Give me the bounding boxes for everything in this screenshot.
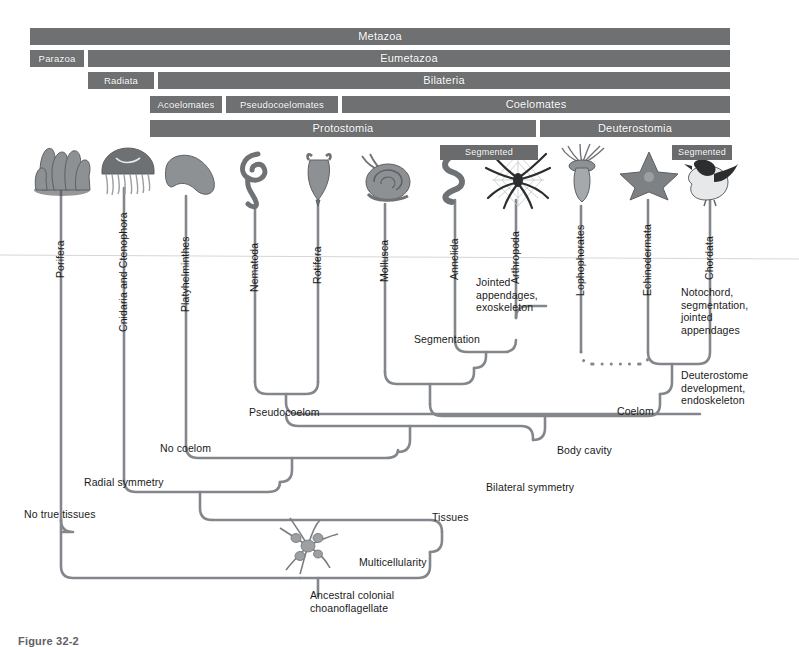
organism-roundworm <box>243 154 265 207</box>
annotation-jointed-appendages: Jointed appendages, exoskeleton <box>476 276 538 314</box>
organism-earthworm <box>445 154 462 202</box>
annotation-tissues: Tissues <box>432 511 469 524</box>
annotation-segmentation: Segmentation <box>414 333 480 346</box>
organism-sponge <box>34 148 90 196</box>
organism-jellyfish <box>102 148 154 195</box>
taxon-label-lophophorates[interactable]: Lophophorates <box>574 225 586 296</box>
taxon-label-cnidaria-and-ctenophora[interactable]: Cnidaria and Ctenophora <box>117 212 129 332</box>
annotation-notochord: Notochord, segmentation, jointed appenda… <box>681 286 748 336</box>
annotation-bilateral-symmetry: Bilateral symmetry <box>486 481 574 494</box>
organism-spider <box>486 152 550 208</box>
taxon-label-annelida[interactable]: Annelida <box>448 238 460 280</box>
annotation-deuterostome: Deuterostome development, endoskeleton <box>681 369 748 407</box>
annotation-radial-symmetry: Radial symmetry <box>84 476 164 489</box>
taxon-label-echinodermata[interactable]: Echinodermata <box>641 224 653 296</box>
segmented-bar-0[interactable]: Segmented <box>440 145 538 160</box>
annotation-no-coelom: No coelom <box>160 442 211 455</box>
annotation-coelom: Coelom <box>617 405 654 418</box>
organism-rotifer <box>308 154 331 206</box>
taxon-label-mollusca[interactable]: Mollusca <box>378 240 390 282</box>
organism-flatworm <box>165 155 214 194</box>
annotation-multicellularity: Multicellularity <box>359 556 427 569</box>
annotation-body-cavity: Body cavity <box>557 444 612 457</box>
organism-bird <box>684 159 738 206</box>
taxon-label-rotifera[interactable]: Rotifera <box>311 246 323 284</box>
annotation-no-true-tissues: No true tissues <box>24 508 96 521</box>
annotation-pseudocoelom: Pseudocoelom <box>249 406 320 419</box>
organism-seastar <box>620 152 678 200</box>
segmented-bar-1[interactable]: Segmented <box>672 145 732 160</box>
organism-lophophore <box>562 144 604 202</box>
taxon-label-nematoda[interactable]: Nematoda <box>248 243 260 292</box>
taxon-label-platyhelminthes[interactable]: Platyhelminthes <box>179 236 191 312</box>
annotation-ancestral-root: Ancestral colonial choanoflagellate <box>310 589 394 614</box>
figure-caption: Figure 32-2 <box>18 635 79 647</box>
organism-choanoflagellate <box>280 518 338 574</box>
taxon-label-chordata[interactable]: Chordata <box>703 236 715 280</box>
taxon-label-porifera[interactable]: Porifera <box>54 240 66 278</box>
organism-snail <box>362 154 410 200</box>
